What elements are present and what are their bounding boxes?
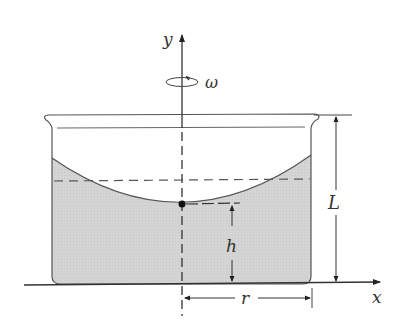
r-label: r [241,288,250,308]
omega-label: ω [205,73,218,92]
beaker-inner-rim [57,127,305,128]
x-axis-label: x [372,287,382,307]
h-label: h [226,236,237,256]
diagram-canvas: x y ω h L r [0,0,407,332]
L-label: L [327,192,340,213]
vertex-point [179,201,186,208]
y-axis-label: y [162,29,173,49]
